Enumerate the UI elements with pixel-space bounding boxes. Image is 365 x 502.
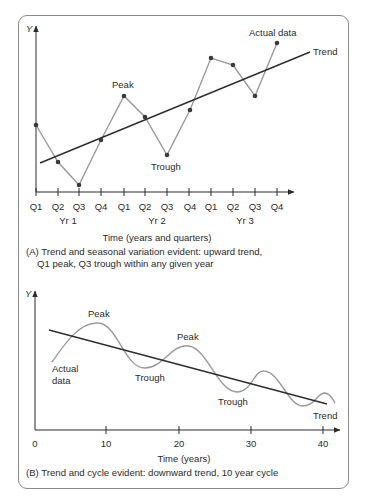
data-label-b: data (52, 375, 71, 386)
svg-text:Q4: Q4 (184, 201, 197, 212)
svg-text:Q2: Q2 (227, 201, 240, 212)
peak-label-a: Peak (112, 79, 134, 90)
x-axis-title-b: Time (years) (158, 453, 211, 464)
svg-text:0: 0 (32, 438, 37, 449)
trough-label-b2: Trough (218, 396, 248, 407)
chart-a: Y Peak Trough Actual data Trend (26, 23, 337, 243)
caption-b: (B) Trend and cycle evident: downward tr… (26, 467, 278, 479)
svg-text:10: 10 (101, 438, 112, 449)
svg-text:Yr 1: Yr 1 (59, 215, 76, 226)
svg-text:Q4: Q4 (271, 201, 284, 212)
chart-b: Y Peak Peak Trough Trough Actual data Tr… (25, 288, 340, 464)
trend-line-a (40, 52, 310, 163)
peak-label-b2: Peak (177, 331, 199, 342)
year-labels-a: Yr 1 Yr 2 Yr 3 (59, 215, 253, 226)
actual-label-b: Actual (52, 363, 78, 374)
trend-label-a: Trend (313, 46, 337, 57)
x-tick-labels-b: 0 10 20 30 40 (32, 438, 328, 449)
svg-text:40: 40 (318, 438, 329, 449)
svg-text:Yr 2: Yr 2 (148, 215, 165, 226)
peak-label-b1: Peak (88, 308, 110, 319)
svg-text:Q1: Q1 (118, 201, 131, 212)
svg-text:Q2: Q2 (139, 201, 152, 212)
svg-text:Q3: Q3 (249, 201, 262, 212)
x-tick-labels-a: Q1 Q2 Q3 Q4 Q1 Q2 Q3 Q4 Q1 Q2 Q3 Q4 (30, 201, 284, 212)
trend-label-b: Trend (313, 410, 337, 421)
trough-label-a: Trough (151, 161, 181, 172)
svg-text:Q3: Q3 (73, 201, 86, 212)
y-axis-label-a: Y (26, 23, 33, 34)
svg-text:Yr 3: Yr 3 (236, 215, 253, 226)
svg-text:Q3: Q3 (161, 201, 174, 212)
caption-a-line1: (A) Trend and seasonal variation evident… (26, 246, 262, 258)
svg-text:Q4: Q4 (95, 201, 108, 212)
svg-text:20: 20 (174, 438, 185, 449)
caption-a-line2: Q1 peak, Q3 trough within any given year (37, 258, 214, 270)
y-axis-label-b: Y (25, 288, 32, 299)
svg-text:Q2: Q2 (52, 201, 65, 212)
svg-text:Q1: Q1 (30, 201, 43, 212)
svg-text:Q1: Q1 (205, 201, 218, 212)
trough-label-b1: Trough (135, 372, 165, 383)
actual-data-label-a: Actual data (249, 27, 297, 38)
svg-text:30: 30 (246, 438, 257, 449)
x-axis-title-a: Time (years and quarters) (103, 232, 212, 243)
